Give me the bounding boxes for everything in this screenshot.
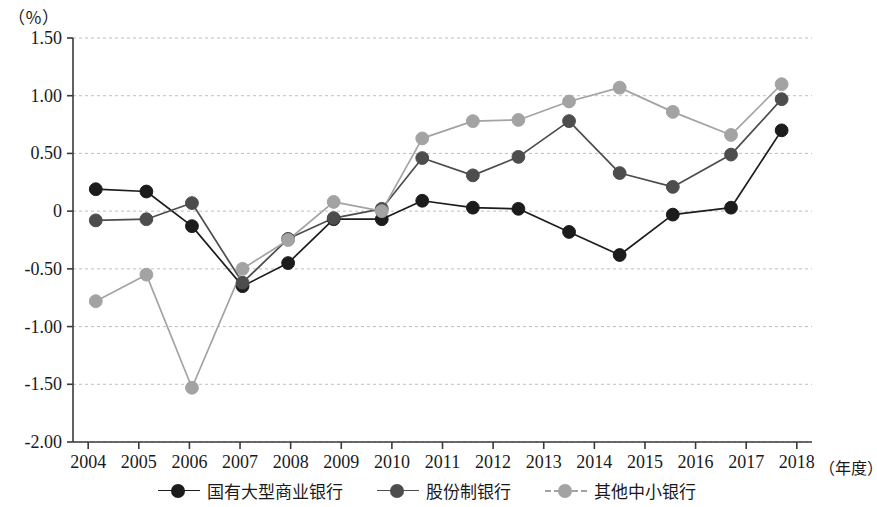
data-point <box>186 381 199 394</box>
legend-item[interactable]: 国有大型商业银行 <box>158 478 343 503</box>
y-axis-tick-label: 0.50 <box>2 143 62 164</box>
y-axis-tick-label: -1.00 <box>2 316 62 337</box>
data-point <box>89 295 102 308</box>
data-point <box>327 196 340 209</box>
data-point <box>512 202 525 215</box>
x-axis-tick-label: 2012 <box>475 452 511 473</box>
data-point <box>416 152 429 165</box>
data-point <box>613 167 626 180</box>
data-point <box>416 132 429 145</box>
data-point <box>563 226 576 239</box>
data-point <box>327 212 340 225</box>
legend-marker-icon <box>377 484 419 498</box>
x-axis-tick-label: 2014 <box>576 452 612 473</box>
data-point <box>466 115 479 128</box>
x-axis-tick-label: 2008 <box>273 452 309 473</box>
x-axis-tick-label: 2007 <box>222 452 258 473</box>
x-axis-tick-label: 2015 <box>627 452 663 473</box>
y-axis-tick-label: -2.00 <box>2 432 62 453</box>
chart-legend: 国有大型商业银行股份制银行其他中小银行 <box>0 478 854 503</box>
x-axis-tick-label: 2013 <box>526 452 562 473</box>
y-axis-tick-label: -1.50 <box>2 374 62 395</box>
legend-item-label: 其他中小银行 <box>594 478 696 503</box>
series-line-0 <box>96 130 782 286</box>
data-point <box>89 183 102 196</box>
x-axis-tick-label: 2010 <box>374 452 410 473</box>
y-axis-tick-label: 1.00 <box>2 85 62 106</box>
data-point <box>775 93 788 106</box>
data-point <box>666 181 679 194</box>
x-axis-tick-label: 2017 <box>728 452 764 473</box>
y-axis-tick-label: 0 <box>2 201 62 222</box>
data-point <box>375 205 388 218</box>
series-lines <box>96 84 782 388</box>
data-point <box>140 213 153 226</box>
data-point <box>725 148 738 161</box>
data-point <box>236 276 249 289</box>
data-point <box>512 150 525 163</box>
data-point <box>236 262 249 275</box>
x-axis-tick-label: 2004 <box>70 452 106 473</box>
data-point <box>416 194 429 207</box>
data-point <box>186 220 199 233</box>
data-point <box>512 114 525 127</box>
x-axis-ticks <box>88 442 797 449</box>
series-line-2 <box>96 84 782 388</box>
data-point <box>563 115 576 128</box>
x-axis-tick-label: 2018 <box>779 452 815 473</box>
x-axis-tick-label: 2009 <box>323 452 359 473</box>
x-axis-unit-label: （年度） <box>819 455 877 479</box>
series-line-1 <box>96 99 782 283</box>
x-axis-tick-label: 2006 <box>171 452 207 473</box>
data-point <box>140 268 153 281</box>
data-point <box>282 234 295 247</box>
data-point <box>466 201 479 214</box>
legend-item-label: 股份制银行 <box>426 478 511 503</box>
data-point <box>140 185 153 198</box>
data-point <box>725 201 738 214</box>
data-point <box>725 129 738 142</box>
data-point <box>466 169 479 182</box>
data-point <box>775 124 788 137</box>
data-point <box>186 197 199 210</box>
series-markers <box>89 78 788 394</box>
legend-marker-icon <box>158 484 200 498</box>
data-point <box>89 214 102 227</box>
data-point <box>666 105 679 118</box>
x-axis-tick-label: 2011 <box>425 452 460 473</box>
data-point <box>666 208 679 221</box>
axis-lines <box>73 38 812 442</box>
data-point <box>282 257 295 270</box>
x-axis-tick-label: 2005 <box>121 452 157 473</box>
x-axis-tick-label: 2016 <box>678 452 714 473</box>
legend-item-label: 国有大型商业银行 <box>207 478 343 503</box>
legend-item[interactable]: 股份制银行 <box>377 478 511 503</box>
y-axis-tick-label: -0.50 <box>2 258 62 279</box>
data-point <box>613 81 626 94</box>
data-point <box>613 249 626 262</box>
data-point <box>563 95 576 108</box>
data-point <box>775 78 788 91</box>
gridlines <box>73 38 812 442</box>
legend-marker-icon <box>545 484 587 498</box>
legend-item[interactable]: 其他中小银行 <box>545 478 696 503</box>
y-axis-ticks <box>67 38 73 442</box>
y-axis-tick-label: 1.50 <box>2 28 62 49</box>
